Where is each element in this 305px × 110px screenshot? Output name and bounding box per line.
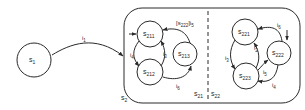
svg-text:i6: i6 — [277, 22, 281, 30]
svg-text:s212: s212 — [143, 68, 155, 77]
svg-text:[s222]i5: [s222]i5 — [176, 20, 194, 28]
state-s212[interactable]: s212 — [137, 59, 163, 85]
state-s223[interactable]: s223 — [233, 63, 259, 89]
region-label-s22: s22 — [211, 90, 220, 99]
svg-text:s213: s213 — [178, 50, 190, 59]
transition-i6-s22[interactable]: i6 — [258, 22, 282, 41]
svg-text:i4: i4 — [272, 82, 276, 90]
transition-i6-s21[interactable]: i6 — [163, 66, 191, 91]
region-label-s21: s21 — [194, 90, 203, 99]
svg-text:s222: s222 — [272, 49, 284, 58]
svg-text:s1: s1 — [29, 56, 36, 65]
transition-i3-s21[interactable]: i3 — [161, 41, 167, 66]
svg-text:s221: s221 — [238, 28, 250, 37]
state-s221[interactable]: s221 — [232, 19, 258, 45]
transition-guarded-i5[interactable]: [s222]i5 — [163, 20, 194, 43]
transition-i1[interactable]: i1 — [52, 35, 123, 56]
statechart-diagram: s1 i1 s2 s21 s22 s211 s212 s213 i4 i3 — [0, 0, 305, 110]
transition-i2[interactable]: i2 — [254, 43, 259, 68]
svg-text:i5: i5 — [263, 69, 267, 77]
state-s1[interactable]: s1 — [17, 43, 51, 77]
state-s213[interactable]: s213 — [173, 42, 197, 66]
state-s222[interactable]: s222 — [267, 41, 291, 65]
svg-text:s211: s211 — [143, 30, 155, 39]
svg-text:i3: i3 — [225, 55, 229, 63]
transition-i4[interactable]: i4 — [130, 41, 139, 66]
transition-i4-s22[interactable]: i4 — [258, 65, 278, 90]
transition-i5-s22[interactable]: i5 — [258, 60, 268, 77]
svg-text:i6: i6 — [176, 83, 180, 91]
svg-text:i1: i1 — [82, 35, 86, 43]
transition-i3-s22[interactable]: i3 — [225, 40, 235, 69]
svg-text:s223: s223 — [239, 72, 251, 81]
svg-text:s2: s2 — [121, 94, 128, 103]
svg-text:i3: i3 — [163, 51, 167, 59]
state-s211[interactable]: s211 — [137, 21, 163, 47]
